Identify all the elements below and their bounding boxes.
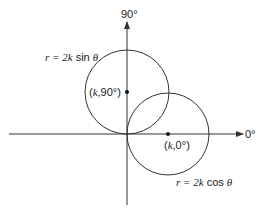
cosine-equation-label: r = 2k cos θ: [176, 176, 233, 188]
polar-diagram: 90° 0° r = 2k sin θ r = 2k cos θ (k,90°)…: [0, 0, 258, 214]
sine-equation-label: r = 2k sin θ: [45, 51, 99, 63]
center-point-k-90: [125, 90, 129, 94]
center-label-k-0: (k,0°): [164, 139, 190, 151]
axis-label-0deg: 0°: [245, 128, 256, 140]
center-point-k-0: [166, 132, 170, 136]
center-label-k-90: (k,90°): [89, 86, 121, 98]
axis-label-90deg: 90°: [121, 8, 138, 20]
